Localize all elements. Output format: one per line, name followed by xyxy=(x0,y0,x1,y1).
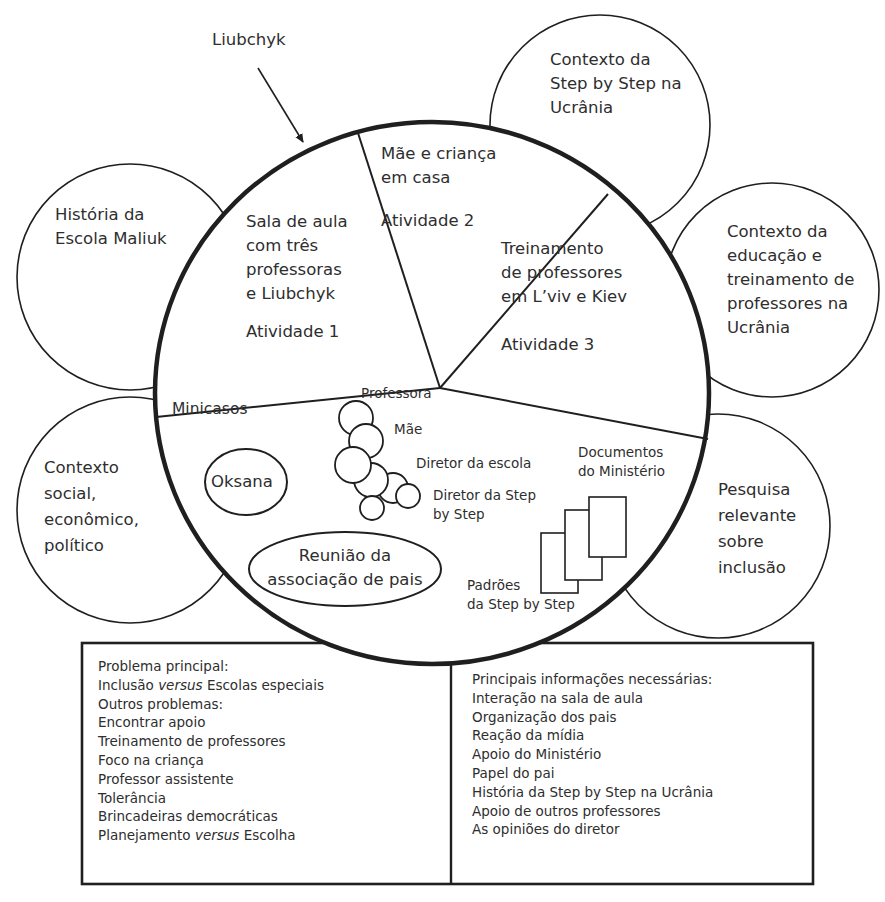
main-problem: Inclusão versus Escolas especiais xyxy=(98,676,324,695)
liubchyk-arrow xyxy=(258,68,303,142)
contexto-social-label: Contexto social, econômico, político xyxy=(44,455,139,559)
other-problems-heading: Outros problemas: xyxy=(98,695,324,714)
info-item: Papel do pai xyxy=(472,764,713,783)
problem-item: Foco na criança xyxy=(98,751,324,770)
mae-label: Mãe xyxy=(394,420,422,439)
professora-label: Professora xyxy=(361,384,432,403)
liubchyk-label: Liubchyk xyxy=(212,28,286,52)
info-item: Interação na sala de aula xyxy=(472,689,713,708)
info-item: Organização dos pais xyxy=(472,708,713,727)
minicasos-title: Minicasos xyxy=(172,399,247,420)
main-problem-heading: Problema principal: xyxy=(98,657,324,676)
problem-item: Treinamento de professores xyxy=(98,732,324,751)
problem-item: Brincadeiras democráticas xyxy=(98,807,324,826)
sector-atividade-2: Mãe e criança em casa Atividade 2 xyxy=(381,142,496,233)
activity-label: Atividade 1 xyxy=(246,320,348,344)
info-item: Reação da mídia xyxy=(472,726,713,745)
problem-item: Tolerância xyxy=(98,789,324,808)
problem-item: Planejamento versus Escolha xyxy=(98,826,324,845)
info-item: Apoio do Ministério xyxy=(472,745,713,764)
diretor-step-label: Diretor da Step by Step xyxy=(433,486,536,524)
info-item: História da Step by Step na Ucrânia xyxy=(472,783,713,802)
diretor-escola-label: Diretor da escola xyxy=(416,454,531,473)
historia-label: História da Escola Maliuk xyxy=(55,203,167,251)
documentos-label: Documentos do Ministério xyxy=(578,443,665,481)
sector-atividade-1: Sala de aula com três professoras e Liub… xyxy=(246,210,348,344)
pesquisa-label: Pesquisa relevante sobre inclusão xyxy=(718,477,796,581)
problem-item: Professor assistente xyxy=(98,770,324,789)
reuniao-label: Reunião da associação de pais xyxy=(253,544,437,592)
padroes-label: Padrões da Step by Step xyxy=(467,576,575,614)
info-item: As opiniões do diretor xyxy=(472,820,713,839)
info-heading: Principais informações necessárias: xyxy=(472,670,713,689)
info-item: Apoio de outros professores xyxy=(472,802,713,821)
contexto-step-label: Contexto da Step by Step na Ucrânia xyxy=(550,48,682,120)
contexto-educacao-label: Contexto da educação e treinamento de pr… xyxy=(727,220,854,340)
oksana-label: Oksana xyxy=(211,470,273,494)
sector-atividade-3: Treinamento de professores em L’viv e Ki… xyxy=(501,237,627,357)
problem-item: Encontrar apoio xyxy=(98,713,324,732)
box-right-info: Principais informações necessárias: Inte… xyxy=(472,670,713,839)
activity-label: Atividade 2 xyxy=(381,209,496,233)
box-left-problems: Problema principal: Inclusão versus Esco… xyxy=(98,657,324,845)
activity-label: Atividade 3 xyxy=(501,333,627,357)
